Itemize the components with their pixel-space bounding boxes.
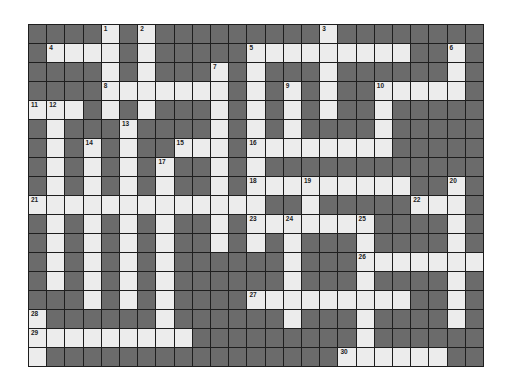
crossword-cell[interactable] bbox=[266, 215, 283, 233]
crossword-cell[interactable] bbox=[84, 196, 101, 214]
crossword-cell[interactable] bbox=[65, 44, 82, 62]
crossword-cell[interactable] bbox=[375, 139, 392, 157]
crossword-cell[interactable] bbox=[247, 120, 264, 138]
crossword-cell[interactable] bbox=[156, 215, 173, 233]
crossword-cell[interactable] bbox=[120, 329, 137, 347]
crossword-cell[interactable]: 4 bbox=[47, 44, 64, 62]
crossword-cell[interactable] bbox=[357, 139, 374, 157]
crossword-cell[interactable] bbox=[320, 291, 337, 309]
crossword-cell[interactable] bbox=[393, 348, 410, 366]
crossword-cell[interactable]: 8 bbox=[102, 82, 119, 100]
crossword-cell[interactable] bbox=[357, 272, 374, 290]
crossword-cell[interactable] bbox=[284, 291, 301, 309]
crossword-cell[interactable] bbox=[357, 310, 374, 328]
crossword-cell[interactable] bbox=[84, 272, 101, 290]
crossword-cell[interactable] bbox=[247, 196, 264, 214]
crossword-cell[interactable] bbox=[175, 329, 192, 347]
crossword-cell[interactable] bbox=[102, 196, 119, 214]
crossword-cell[interactable] bbox=[320, 139, 337, 157]
crossword-cell[interactable] bbox=[448, 63, 465, 81]
crossword-cell[interactable] bbox=[138, 329, 155, 347]
crossword-cell[interactable] bbox=[120, 139, 137, 157]
crossword-cell[interactable] bbox=[247, 158, 264, 176]
crossword-cell[interactable] bbox=[211, 177, 228, 195]
crossword-cell[interactable] bbox=[47, 196, 64, 214]
crossword-cell[interactable] bbox=[375, 291, 392, 309]
crossword-cell[interactable]: 5 bbox=[247, 44, 264, 62]
crossword-cell[interactable]: 1 bbox=[102, 25, 119, 43]
crossword-cell[interactable] bbox=[357, 44, 374, 62]
crossword-cell[interactable] bbox=[284, 177, 301, 195]
crossword-cell[interactable]: 18 bbox=[247, 177, 264, 195]
crossword-cell[interactable] bbox=[156, 310, 173, 328]
crossword-cell[interactable] bbox=[448, 215, 465, 233]
crossword-cell[interactable]: 23 bbox=[247, 215, 264, 233]
crossword-cell[interactable] bbox=[102, 329, 119, 347]
crossword-cell[interactable] bbox=[448, 234, 465, 252]
crossword-cell[interactable]: 20 bbox=[448, 177, 465, 195]
crossword-cell[interactable] bbox=[266, 177, 283, 195]
crossword-cell[interactable]: 12 bbox=[47, 101, 64, 119]
crossword-cell[interactable] bbox=[156, 291, 173, 309]
crossword-cell[interactable] bbox=[247, 234, 264, 252]
crossword-cell[interactable] bbox=[284, 234, 301, 252]
crossword-cell[interactable] bbox=[138, 196, 155, 214]
crossword-cell[interactable] bbox=[47, 272, 64, 290]
crossword-cell[interactable]: 24 bbox=[284, 215, 301, 233]
crossword-cell[interactable] bbox=[156, 177, 173, 195]
crossword-cell[interactable] bbox=[393, 177, 410, 195]
crossword-cell[interactable] bbox=[47, 158, 64, 176]
crossword-cell[interactable] bbox=[247, 101, 264, 119]
crossword-cell[interactable]: 30 bbox=[338, 348, 355, 366]
crossword-cell[interactable] bbox=[102, 44, 119, 62]
crossword-cell[interactable] bbox=[375, 253, 392, 271]
crossword-cell[interactable] bbox=[375, 348, 392, 366]
crossword-cell[interactable] bbox=[120, 196, 137, 214]
crossword-cell[interactable] bbox=[138, 101, 155, 119]
crossword-cell[interactable] bbox=[120, 215, 137, 233]
crossword-cell[interactable] bbox=[448, 196, 465, 214]
crossword-cell[interactable] bbox=[302, 139, 319, 157]
crossword-cell[interactable] bbox=[138, 44, 155, 62]
crossword-cell[interactable] bbox=[47, 329, 64, 347]
crossword-cell[interactable] bbox=[211, 215, 228, 233]
crossword-cell[interactable] bbox=[211, 82, 228, 100]
crossword-cell[interactable] bbox=[229, 196, 246, 214]
crossword-cell[interactable] bbox=[338, 177, 355, 195]
crossword-cell[interactable] bbox=[47, 215, 64, 233]
crossword-cell[interactable] bbox=[302, 44, 319, 62]
crossword-cell[interactable] bbox=[411, 253, 428, 271]
crossword-cell[interactable] bbox=[193, 139, 210, 157]
crossword-cell[interactable] bbox=[120, 291, 137, 309]
crossword-cell[interactable] bbox=[266, 139, 283, 157]
crossword-cell[interactable] bbox=[284, 139, 301, 157]
crossword-cell[interactable] bbox=[156, 329, 173, 347]
crossword-cell[interactable] bbox=[338, 139, 355, 157]
crossword-cell[interactable] bbox=[375, 120, 392, 138]
crossword-cell[interactable] bbox=[65, 196, 82, 214]
crossword-cell[interactable] bbox=[47, 120, 64, 138]
crossword-cell[interactable] bbox=[302, 291, 319, 309]
crossword-cell[interactable] bbox=[47, 253, 64, 271]
crossword-cell[interactable] bbox=[320, 44, 337, 62]
crossword-cell[interactable]: 10 bbox=[375, 82, 392, 100]
crossword-cell[interactable] bbox=[138, 82, 155, 100]
crossword-cell[interactable] bbox=[284, 253, 301, 271]
crossword-cell[interactable] bbox=[284, 272, 301, 290]
crossword-cell[interactable]: 7 bbox=[211, 63, 228, 81]
crossword-cell[interactable] bbox=[357, 291, 374, 309]
crossword-cell[interactable] bbox=[284, 310, 301, 328]
crossword-cell[interactable] bbox=[193, 196, 210, 214]
crossword-cell[interactable] bbox=[284, 120, 301, 138]
crossword-cell[interactable] bbox=[156, 234, 173, 252]
crossword-cell[interactable] bbox=[120, 177, 137, 195]
crossword-cell[interactable] bbox=[411, 82, 428, 100]
crossword-cell[interactable] bbox=[84, 215, 101, 233]
crossword-cell[interactable] bbox=[448, 272, 465, 290]
crossword-cell[interactable]: 29 bbox=[29, 329, 46, 347]
crossword-cell[interactable]: 2 bbox=[138, 25, 155, 43]
crossword-cell[interactable]: 6 bbox=[448, 44, 465, 62]
crossword-cell[interactable] bbox=[65, 329, 82, 347]
crossword-cell[interactable] bbox=[156, 82, 173, 100]
crossword-cell[interactable] bbox=[411, 348, 428, 366]
